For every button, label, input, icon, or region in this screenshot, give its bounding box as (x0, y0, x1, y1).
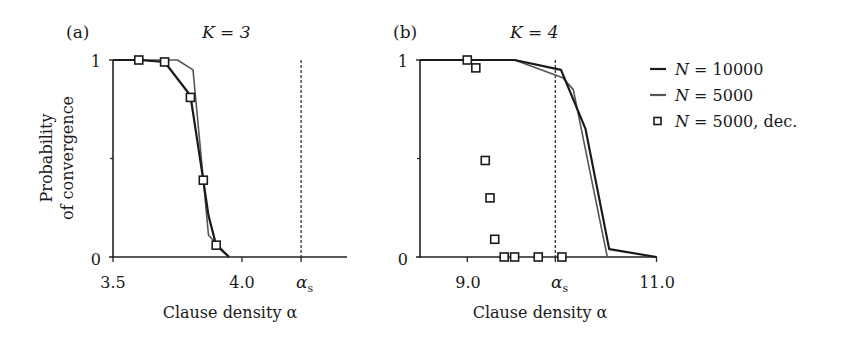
data-marker-square (486, 194, 494, 202)
a-xtick-4-0: 4.0 (229, 273, 254, 292)
data-marker-square (135, 56, 143, 64)
series-line-n-10000 (420, 60, 657, 257)
panel-a-title: K = 3 (201, 22, 251, 42)
panel-a-k3: (a) K = 3 0 1 3.5 4.0 αs Clause density … (37, 22, 347, 322)
legend: N = 10000N = 5000N = 5000, dec. (650, 60, 797, 131)
figure: (a) K = 3 0 1 3.5 4.0 αs Clause density … (0, 0, 850, 342)
data-marker-square (558, 253, 566, 261)
panel-a-plot-area (109, 56, 347, 262)
legend-label: N = 10000 (674, 60, 763, 79)
b-xtick-11-0: 11.0 (639, 273, 675, 292)
a-ytick-0: 0 (91, 250, 101, 269)
data-marker-square (212, 241, 220, 249)
panel-b-plot-area (416, 56, 657, 262)
ylabel-line2: of convergence (58, 96, 77, 220)
data-marker-square (472, 64, 480, 72)
data-marker-square (186, 93, 194, 101)
data-marker-square (463, 56, 471, 64)
data-marker-square (500, 253, 508, 261)
data-marker-square (199, 176, 207, 184)
data-marker-square (511, 253, 519, 261)
panel-b-k4: (b) K = 4 0 1 9.0 11.0 αs Clause density… (393, 22, 675, 322)
data-marker-square (534, 253, 542, 261)
b-xlabel: Clause density α (473, 303, 608, 322)
a-xtick-alpha-s: αs (296, 272, 313, 295)
data-marker-square (491, 235, 499, 243)
legend-square-icon (654, 118, 661, 125)
panel-a-label: (a) (66, 22, 89, 42)
a-xtick-3-5: 3.5 (100, 273, 125, 292)
legend-label: N = 5000, dec. (674, 112, 797, 131)
panel-b-title: K = 4 (509, 22, 559, 42)
b-xtick-alpha-s: αs (551, 272, 568, 295)
legend-label: N = 5000 (674, 86, 753, 105)
ylabel-line1: Probability (37, 114, 56, 203)
series-line-n-10000 (113, 60, 229, 257)
a-xlabel: Clause density α (163, 303, 298, 322)
b-xtick-9-0: 9.0 (455, 273, 480, 292)
b-ytick-1: 1 (398, 52, 408, 71)
panel-b-label: (b) (393, 22, 417, 42)
data-marker-square (481, 156, 489, 164)
data-marker-square (161, 58, 169, 66)
series-line-n-5000 (420, 60, 657, 257)
a-ytick-1: 1 (91, 52, 101, 71)
b-ytick-0: 0 (398, 250, 408, 269)
